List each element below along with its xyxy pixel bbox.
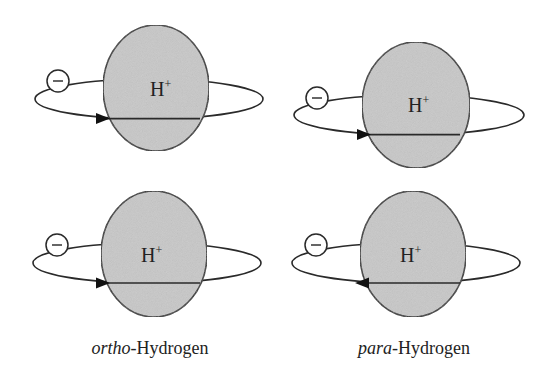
- hydrogen-spin-diagram: H+ H+ H+ H+: [0, 0, 554, 380]
- panel-ortho-top: H+: [15, 25, 263, 151]
- caption-suffix: -Hydrogen: [392, 338, 470, 358]
- panel-para-bottom: H+: [292, 191, 520, 317]
- caption-prefix: para: [358, 338, 392, 358]
- caption-prefix: ortho: [92, 338, 131, 358]
- panel-para-top: H+: [294, 42, 524, 168]
- caption-suffix: -Hydrogen: [131, 338, 209, 358]
- arrow-left-icon: [355, 278, 369, 289]
- panel-ortho-bottom: H+: [33, 191, 261, 317]
- caption-para-hydrogen: para-Hydrogen: [358, 338, 470, 359]
- caption-ortho-hydrogen: ortho-Hydrogen: [92, 338, 209, 359]
